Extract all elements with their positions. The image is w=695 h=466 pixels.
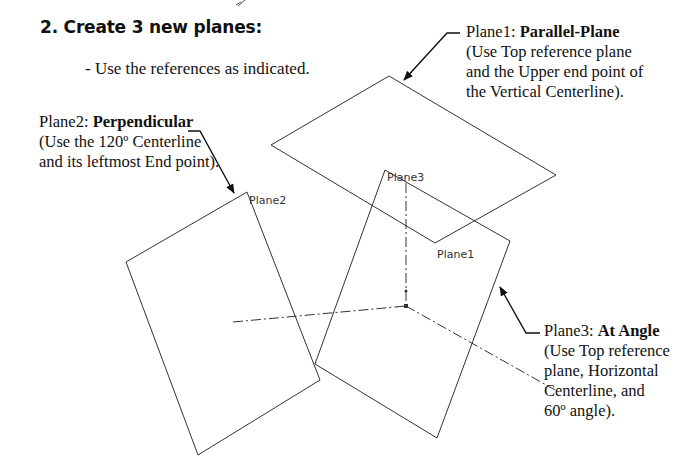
plane3-leader-arrow xyxy=(500,287,540,333)
plane-drawing: Plane2 Plane3 Plane1 xyxy=(0,0,695,466)
plane3-outline xyxy=(315,170,510,438)
plane3-label: Plane3 xyxy=(387,171,424,184)
artifact-mark xyxy=(236,0,245,6)
plane2-leader-arrow xyxy=(188,131,234,193)
centerline-point xyxy=(405,290,408,293)
plane2-outline xyxy=(126,192,320,455)
angled-centerline xyxy=(233,306,406,322)
plane1-label: Plane1 xyxy=(437,248,474,261)
plane1-leader-arrow xyxy=(404,33,460,80)
plane2-label: Plane2 xyxy=(249,194,286,207)
plane1-outline xyxy=(271,76,556,243)
origin-point xyxy=(404,304,408,308)
horizontal-centerline xyxy=(406,306,555,390)
